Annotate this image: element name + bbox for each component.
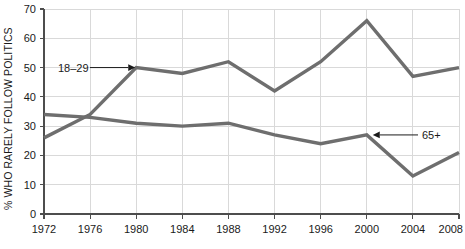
annotation-label: 18–29	[58, 62, 89, 74]
y-tick-label: 20	[24, 149, 36, 161]
chart-container: 010203040506070 197219761980198419881992…	[0, 0, 465, 249]
x-tick-label: 2004	[401, 223, 425, 235]
y-axis-title: % WHO RARELY FOLLOW POLITICS	[2, 27, 14, 210]
y-tick-label: 70	[24, 3, 36, 15]
x-tick-label: 1976	[78, 223, 102, 235]
y-tick-label: 60	[24, 32, 36, 44]
y-tick-label: 10	[24, 179, 36, 191]
x-tick-label: 1972	[32, 223, 56, 235]
annotation-label: 65+	[422, 129, 441, 141]
x-tick-label: 1992	[262, 223, 286, 235]
y-tick-label: 40	[24, 91, 36, 103]
x-tick-label: 1980	[124, 223, 148, 235]
x-tick-label: 1984	[170, 223, 194, 235]
y-tick-label: 30	[24, 120, 36, 132]
x-tick-label: 1988	[216, 223, 240, 235]
line-chart: 010203040506070 197219761980198419881992…	[0, 0, 465, 249]
y-tick-label: 0	[30, 208, 36, 220]
x-tick-label: 2008	[439, 223, 463, 235]
x-tick-label: 1996	[308, 223, 332, 235]
y-tick-label: 50	[24, 62, 36, 74]
x-tick-label: 2000	[355, 223, 379, 235]
